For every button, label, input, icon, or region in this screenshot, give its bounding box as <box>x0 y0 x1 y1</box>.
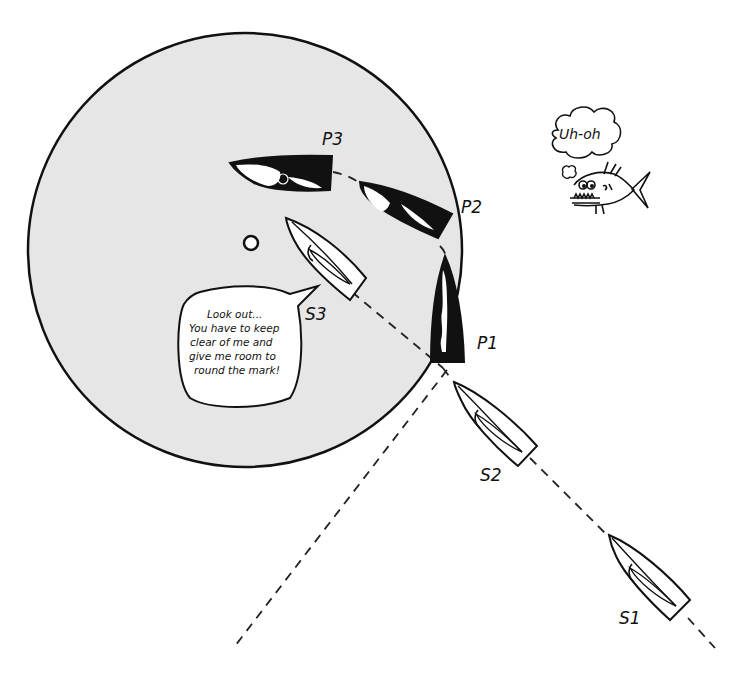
speech-line-3: clear of me and <box>190 336 273 348</box>
mark-rounding-diagram: P3 P2 P1 S3 S2 S1 Look out... You h <box>0 0 740 678</box>
fish-pupil-left <box>583 185 585 187</box>
speech-line-1: Look out... <box>207 308 262 320</box>
fish-jaw <box>570 198 600 203</box>
starboard-track-s1-out <box>688 618 715 648</box>
thought-text: Uh-oh <box>559 126 601 142</box>
speech-line-4: give me room to <box>189 350 276 362</box>
boat-s2 <box>454 382 537 466</box>
label-s3: S3 <box>305 304 327 324</box>
speech-line-2: You have to keep <box>189 322 280 334</box>
label-p3: P3 <box>322 129 343 149</box>
starboard-track-s2-s1 <box>530 458 608 536</box>
fish-icon <box>570 162 650 214</box>
mark-buoy-icon <box>244 236 258 250</box>
label-s2: S2 <box>480 465 502 485</box>
thought-bubble: Uh-oh <box>552 107 620 178</box>
label-s1: S1 <box>619 608 641 628</box>
fish-gill <box>603 184 612 190</box>
speech-line-5: round the mark! <box>194 364 280 376</box>
fish-pupil-right <box>591 185 593 187</box>
fish-fins-bottom <box>596 205 604 214</box>
label-p2: P2 <box>461 197 482 217</box>
label-p1: P1 <box>477 333 498 353</box>
thought-puff <box>563 166 577 178</box>
